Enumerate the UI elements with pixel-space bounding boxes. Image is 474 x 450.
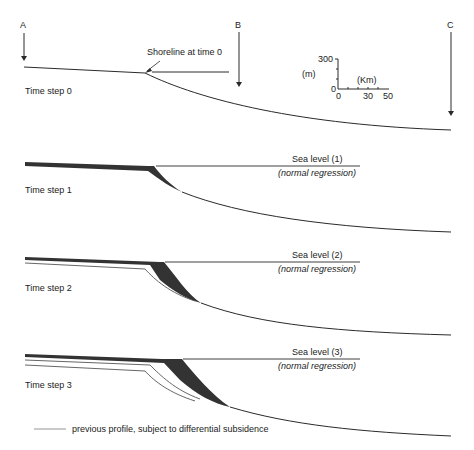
scale-x-50: 50	[383, 92, 393, 101]
scale-y-max: 300	[318, 55, 333, 64]
shoreline-annotation: Shoreline at time 0	[147, 48, 222, 57]
scale-y-unit: (m)	[302, 70, 316, 79]
arrow-label-a: A	[20, 21, 26, 30]
sea-level-note-2: (normal regression)	[278, 265, 356, 274]
arrow-a	[21, 33, 27, 61]
arrow-label-c: C	[447, 21, 454, 30]
sea-level-3: Sea level (3)	[292, 348, 343, 357]
profile-step-2	[25, 257, 451, 335]
arrow-label-b: B	[235, 21, 241, 30]
sea-level-note-3: (normal regression)	[278, 362, 356, 371]
legend-text: previous profile, subject to differentia…	[72, 425, 268, 434]
arrow-b	[236, 32, 242, 87]
panel-title-0: Time step 0	[25, 87, 72, 96]
panel-title-1: Time step 1	[25, 186, 72, 195]
sea-level-note-1: (normal regression)	[278, 169, 356, 178]
sea-level-2: Sea level (2)	[292, 251, 343, 260]
profile-step-1	[25, 162, 451, 232]
arrow-c	[448, 32, 454, 116]
scale-x-0: 0	[336, 92, 341, 101]
panel-title-3: Time step 3	[25, 381, 72, 390]
panel-title-2: Time step 2	[25, 284, 72, 293]
scale-x-30: 30	[363, 92, 373, 101]
scale-x-unit: (Km)	[357, 76, 377, 85]
sea-level-1: Sea level (1)	[292, 155, 343, 164]
